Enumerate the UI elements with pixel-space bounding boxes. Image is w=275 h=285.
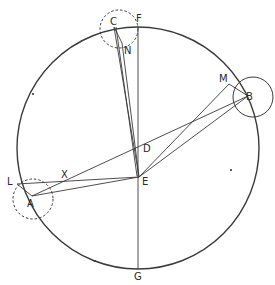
diagram-canvas [0, 0, 275, 285]
circles-group [13, 10, 273, 269]
label-point-b: B [246, 92, 253, 102]
label-point-n: N [124, 46, 131, 56]
label-point-a: A [27, 199, 34, 209]
label-point-d: D [143, 144, 151, 154]
label-point-e: E [142, 177, 148, 187]
label-point-l: L [7, 177, 13, 187]
geometry-diagram: FCNMBDEXLAG [0, 0, 275, 285]
label-point-g: G [134, 272, 142, 282]
label-point-m: M [219, 74, 228, 84]
label-point-c: C [110, 17, 117, 27]
label-point-x: X [61, 170, 68, 180]
segment-eb [139, 96, 248, 177]
segment-la [17, 184, 32, 196]
arrow-tick-right [230, 169, 232, 171]
arrow-tick-left [32, 93, 34, 95]
arrow-tick-bottom [94, 260, 96, 262]
segment-ne [122, 43, 139, 177]
label-point-f: F [136, 14, 142, 24]
segment-em [139, 84, 229, 177]
